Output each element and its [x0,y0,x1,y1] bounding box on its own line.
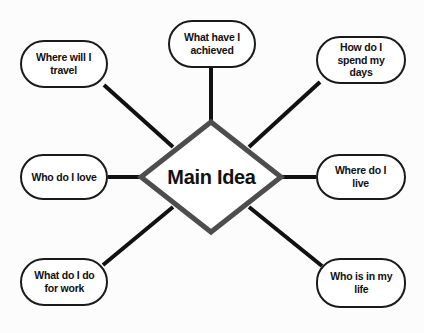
node-label-what-do-i-do-for-work: What do I do for work [29,269,99,294]
node-what-have-i-achieved[interactable]: What have I achieved [168,20,256,68]
node-who-is-in-my-life[interactable]: Who is in my life [316,258,406,308]
node-how-do-i-spend-my-days[interactable]: How do I spend my days [316,36,406,84]
node-where-do-i-live[interactable]: Where do I live [316,154,406,200]
node-label-who-do-i-love: Who do I love [27,171,102,184]
edge-top-right [249,82,320,147]
node-where-will-i-travel[interactable]: Where will I travel [20,40,108,88]
edge-bottom-left [103,207,173,265]
node-label-how-do-i-spend-my-days: How do I spend my days [321,41,401,79]
mind-map-diagram: Main Idea Where will I travel What have … [0,0,424,333]
node-label-what-have-i-achieved: What have I achieved [179,31,244,56]
node-label-who-is-in-my-life: Who is in my life [325,270,396,295]
node-what-do-i-do-for-work[interactable]: What do I do for work [20,258,108,306]
edge-bottom-right [249,207,322,266]
edge-top-left [104,85,173,147]
node-label-where-do-i-live: Where do I live [331,164,392,189]
node-label-where-will-i-travel: Where will I travel [32,51,96,76]
node-who-do-i-love[interactable]: Who do I love [20,154,108,200]
